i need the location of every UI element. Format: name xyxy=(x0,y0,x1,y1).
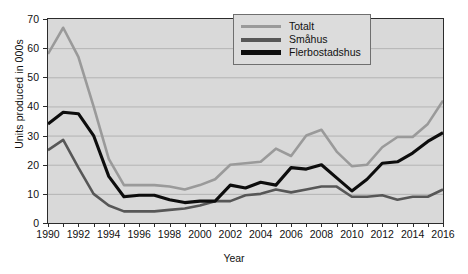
x-tick-mark xyxy=(185,223,186,227)
x-tick-mark xyxy=(246,223,247,227)
x-tick-mark xyxy=(291,223,292,227)
legend-label-totalt: Totalt xyxy=(289,21,314,32)
x-tick-mark xyxy=(352,223,353,227)
x-tick-mark xyxy=(154,223,155,227)
y-tick-label: 50 xyxy=(5,72,39,82)
y-tick-mark xyxy=(43,223,47,224)
y-tick-label: 20 xyxy=(5,160,39,170)
x-tick-mark xyxy=(443,223,444,227)
y-tick-label: 0 xyxy=(5,218,39,228)
x-tick-mark xyxy=(397,223,398,227)
legend-item-smahus: Småhus xyxy=(241,33,361,46)
y-tick-mark xyxy=(43,19,47,20)
x-tick-mark xyxy=(230,223,231,227)
y-tick-label: 40 xyxy=(5,101,39,111)
y-tick-label: 10 xyxy=(5,189,39,199)
x-tick-mark xyxy=(124,223,125,227)
x-tick-mark xyxy=(367,223,368,227)
x-tick-mark xyxy=(276,223,277,227)
x-tick-mark xyxy=(170,223,171,227)
x-tick-mark xyxy=(78,223,79,227)
x-tick-mark xyxy=(94,223,95,227)
x-tick-mark xyxy=(413,223,414,227)
x-tick-mark xyxy=(63,223,64,227)
chart-figure: Units produced in 000s 01020304050607019… xyxy=(0,0,468,274)
x-tick-mark xyxy=(428,223,429,227)
legend-label-smahus: Småhus xyxy=(289,34,328,45)
x-tick-mark xyxy=(306,223,307,227)
y-tick-mark xyxy=(43,194,47,195)
legend-swatch-smahus xyxy=(241,38,281,42)
x-tick-mark xyxy=(200,223,201,227)
chart-legend: Totalt Småhus Flerbostadshus xyxy=(233,14,371,65)
x-tick-mark xyxy=(215,223,216,227)
legend-item-totalt: Totalt xyxy=(241,20,361,33)
x-tick-mark xyxy=(321,223,322,227)
x-axis-title: Year xyxy=(0,252,468,264)
y-tick-mark xyxy=(43,106,47,107)
y-tick-mark xyxy=(43,165,47,166)
x-tick-mark xyxy=(261,223,262,227)
x-tick-mark xyxy=(109,223,110,227)
y-tick-mark xyxy=(43,48,47,49)
x-tick-mark xyxy=(139,223,140,227)
x-tick-mark xyxy=(337,223,338,227)
y-tick-mark xyxy=(43,136,47,137)
x-tick-mark xyxy=(382,223,383,227)
legend-swatch-flerbostadshus xyxy=(241,50,281,55)
y-tick-mark xyxy=(43,77,47,78)
y-tick-label: 30 xyxy=(5,131,39,141)
x-tick-mark xyxy=(48,223,49,227)
legend-item-flerbostadshus: Flerbostadshus xyxy=(241,46,361,59)
legend-label-flerbostadshus: Flerbostadshus xyxy=(289,47,361,58)
x-tick-label: 2016 xyxy=(423,229,463,240)
y-tick-label: 60 xyxy=(5,43,39,53)
legend-swatch-totalt xyxy=(241,25,281,28)
y-tick-label: 70 xyxy=(5,14,39,24)
